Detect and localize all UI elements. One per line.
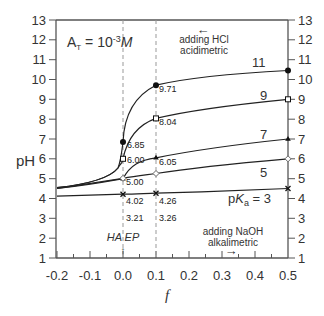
y-axis-label: pH [16,152,35,169]
svg-text:4.02: 4.02 [126,196,144,206]
svg-text:5: 5 [298,171,305,186]
svg-text:11: 11 [252,55,266,70]
svg-text:9: 9 [39,92,46,107]
svg-text:3.26: 3.26 [159,213,177,223]
svg-text:7: 7 [260,127,267,142]
equivalence-point-label: HA EP [107,231,140,243]
svg-text:4.26: 4.26 [159,196,177,206]
base-label-line1: adding NaOH [203,226,264,237]
pka-3-label: pKa = 3 [228,191,271,208]
svg-text:2: 2 [39,231,46,246]
svg-text:-0.2: -0.2 [46,268,68,283]
svg-text:2: 2 [298,231,305,246]
svg-text:5: 5 [39,171,46,186]
svg-text:6.05: 6.05 [159,157,177,167]
svg-text:0.4: 0.4 [246,268,264,283]
svg-text:3.21: 3.21 [126,213,144,223]
y-tick-labels-right: 13 12 11 10 9 8 7 6 5 4 3 2 1 [298,13,312,266]
acid-label-line2: acidimetric [180,45,228,56]
svg-text:0.0: 0.0 [114,268,132,283]
svg-text:8.04: 8.04 [159,117,177,127]
svg-text:0.1: 0.1 [147,268,165,283]
svg-text:8: 8 [39,112,46,127]
svg-text:9: 9 [260,88,267,103]
x-ticks [57,251,272,258]
svg-text:6: 6 [298,151,305,166]
svg-text:6.85: 6.85 [127,140,145,150]
svg-text:4: 4 [298,191,305,206]
svg-text:11: 11 [33,52,47,67]
svg-text:10: 10 [298,72,312,87]
svg-text:7: 7 [298,132,305,147]
svg-text:5: 5 [260,165,267,180]
x-axis-label: f [165,287,171,303]
y-tick-labels-left: 13 12 11 10 9 8 7 6 5 4 3 2 1 [32,13,46,266]
svg-text:3: 3 [298,211,305,226]
svg-text:9.71: 9.71 [159,84,177,94]
svg-text:6: 6 [39,151,46,166]
svg-text:0.5: 0.5 [279,268,297,283]
svg-text:7: 7 [39,132,46,147]
titration-chart: 13 12 11 10 9 8 7 6 5 4 3 2 1 pH 13 12 1… [0,0,324,316]
svg-text:1: 1 [39,251,46,266]
base-arrow: → [225,243,238,258]
equivalence-arrow: ↑ [121,245,126,256]
svg-text:11: 11 [298,52,312,67]
svg-text:9: 9 [298,92,305,107]
svg-text:10: 10 [32,72,46,87]
svg-text:0.3: 0.3 [213,268,231,283]
curve-labels: 11 9 7 5 pKa = 3 [228,55,271,208]
svg-text:-0.1: -0.1 [79,268,101,283]
svg-text:13: 13 [32,13,46,28]
svg-text:0.2: 0.2 [180,268,198,283]
svg-text:4: 4 [39,191,46,206]
svg-text:12: 12 [298,32,312,47]
svg-text:6.00: 6.00 [127,155,145,165]
y-ticks-left [49,20,56,258]
svg-text:1: 1 [298,251,305,266]
svg-text:12: 12 [32,32,46,47]
svg-text:5.00: 5.00 [126,177,144,187]
svg-text:13: 13 [298,13,312,28]
svg-text:8: 8 [298,112,305,127]
x-tick-labels: -0.2 -0.1 0.0 0.1 0.2 0.3 0.4 0.5 [46,268,297,283]
acid-label-line1: adding HCl [179,34,228,45]
svg-text:3: 3 [39,211,46,226]
concentration-annotation: AT = 10-3M [67,34,133,52]
